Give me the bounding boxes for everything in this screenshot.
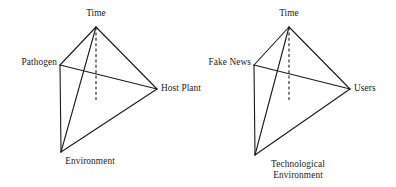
vertex-label-users: Users <box>354 83 376 94</box>
vertex-label-environment: Environment <box>65 156 115 167</box>
edge-left-to-bottom <box>254 65 255 155</box>
edge-left-to-right <box>254 65 350 89</box>
vertex-label-technological-environment: Technological Environment <box>255 159 341 181</box>
edge-apex-to-right <box>289 27 350 89</box>
edge-apex-to-right <box>96 27 157 89</box>
edge-bottom-to-right <box>61 89 157 152</box>
edge-bottom-to-right <box>255 89 350 155</box>
diagram-plant-disease-tetrahedron: Time Pathogen Host Plant Environment <box>0 0 198 187</box>
edge-left-to-bottom <box>60 65 61 152</box>
vertex-label-host-plant: Host Plant <box>161 83 201 94</box>
vertex-label-time: Time <box>279 8 299 19</box>
diagram-fake-news-tetrahedron: Time Fake News Users Technological Envir… <box>198 0 396 187</box>
figure-root: Time Pathogen Host Plant Environment Tim… <box>0 0 396 187</box>
vertex-label-time: Time <box>86 8 106 19</box>
vertex-label-pathogen: Pathogen <box>22 57 57 68</box>
edge-left-to-right <box>60 65 157 89</box>
vertex-label-fake-news: Fake News <box>209 57 251 68</box>
